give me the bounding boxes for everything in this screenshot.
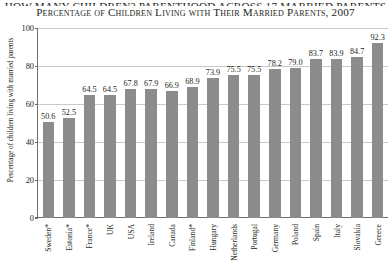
chart-title-block: HOW MANY CHILDREN? PARENTHOOD ACROSS 17 … xyxy=(0,0,391,19)
x-label-slot: Netherlands xyxy=(223,222,244,273)
x-tick-label: Finland* xyxy=(188,224,197,251)
bar[interactable] xyxy=(228,75,240,218)
x-label-slot: Hungary xyxy=(203,222,224,273)
y-tick-label: 80 xyxy=(26,62,34,71)
bar-value-label: 67.9 xyxy=(144,79,158,88)
x-tick-label: USA xyxy=(126,224,135,239)
bar[interactable] xyxy=(372,43,384,218)
bar-slot: 75.5 xyxy=(244,28,265,218)
bar-value-label: 68.9 xyxy=(185,77,199,86)
bar-slot: 67.9 xyxy=(141,28,162,218)
bar-slot: 50.6 xyxy=(38,28,59,218)
y-axis-label: Percentage of children living with marri… xyxy=(7,15,15,205)
bar[interactable] xyxy=(166,91,178,218)
x-tick-label: Canada xyxy=(167,224,176,247)
bar-value-label: 52.5 xyxy=(62,108,76,117)
bar[interactable] xyxy=(331,59,343,218)
bar-slot: 67.8 xyxy=(120,28,141,218)
x-label-slot: USA xyxy=(120,222,141,273)
bar[interactable] xyxy=(290,68,302,218)
x-label-slot: France* xyxy=(79,222,100,273)
x-label-slot: Germany xyxy=(264,222,285,273)
bar-value-label: 75.5 xyxy=(226,65,240,74)
bar-slot: 83.9 xyxy=(326,28,347,218)
x-label-slot: Slovakia xyxy=(347,222,368,273)
x-label-slot: Sweden* xyxy=(38,222,59,273)
x-tick-label: Greece xyxy=(373,224,382,246)
bar-chart: Percentage of children living with marri… xyxy=(0,22,391,273)
bar-value-label: 73.9 xyxy=(206,68,220,77)
bar[interactable] xyxy=(84,95,96,218)
bar-value-label: 83.9 xyxy=(329,49,343,58)
x-label-slot: Ireland xyxy=(141,222,162,273)
x-axis-tick-labels: Sweden*Estonia*France*UKUSAIrelandCanada… xyxy=(38,222,388,273)
bar-slot: 84.7 xyxy=(347,28,368,218)
bar-series: 50.652.564.564.567.867.966.968.973.975.5… xyxy=(38,28,388,218)
bar-slot: 75.5 xyxy=(223,28,244,218)
bar-value-label: 75.5 xyxy=(247,65,261,74)
bar-value-label: 83.7 xyxy=(309,49,323,58)
x-tick-label: Slovakia xyxy=(353,224,362,251)
x-tick-label: Germany xyxy=(270,224,279,252)
bar[interactable] xyxy=(310,59,322,218)
bar-value-label: 64.5 xyxy=(103,85,117,94)
x-label-slot: Spain xyxy=(306,222,327,273)
bar-value-label: 67.8 xyxy=(123,79,137,88)
x-label-slot: Poland xyxy=(285,222,306,273)
y-tick-label: 40 xyxy=(26,138,34,147)
bar-slot: 52.5 xyxy=(59,28,80,218)
x-tick-label: Sweden* xyxy=(44,224,53,252)
bar-slot: 78.2 xyxy=(264,28,285,218)
bar[interactable] xyxy=(125,89,137,218)
bar-value-label: 92.3 xyxy=(371,33,385,42)
bar[interactable] xyxy=(104,95,116,218)
bar-slot: 83.7 xyxy=(306,28,327,218)
x-tick-label: UK xyxy=(106,224,115,235)
y-tick-label: 100 xyxy=(21,24,34,33)
bar[interactable] xyxy=(63,118,75,218)
x-label-slot: Finland* xyxy=(182,222,203,273)
bar[interactable] xyxy=(269,69,281,218)
x-label-slot: Portugal xyxy=(244,222,265,273)
bar[interactable] xyxy=(351,57,363,218)
bar-slot: 64.5 xyxy=(100,28,121,218)
bar-slot: 64.5 xyxy=(79,28,100,218)
x-tick-label: Hungary xyxy=(208,224,217,251)
x-label-slot: Estonia* xyxy=(59,222,80,273)
bar-slot: 79.0 xyxy=(285,28,306,218)
plot-area: 020406080100 50.652.564.564.567.867.966.… xyxy=(38,28,388,218)
bar[interactable] xyxy=(145,89,157,218)
y-tick-mark xyxy=(35,218,38,219)
y-tick-label: 60 xyxy=(26,100,34,109)
x-tick-label: Spain xyxy=(311,224,320,241)
x-tick-label: Ireland xyxy=(147,224,156,246)
bar[interactable] xyxy=(187,87,199,218)
x-label-slot: UK xyxy=(100,222,121,273)
x-label-slot: Canada xyxy=(162,222,183,273)
x-tick-label: France* xyxy=(85,224,94,248)
bar-slot: 66.9 xyxy=(162,28,183,218)
bar[interactable] xyxy=(43,122,55,218)
bar[interactable] xyxy=(248,75,260,218)
y-tick-label: 0 xyxy=(30,214,34,223)
bar-value-label: 66.9 xyxy=(165,81,179,90)
x-tick-label: Italy xyxy=(332,224,341,238)
x-tick-label: Poland xyxy=(291,224,300,245)
x-tick-label: Portugal xyxy=(250,224,259,250)
x-tick-label: Netherlands xyxy=(229,224,238,261)
x-label-slot: Greece xyxy=(367,222,388,273)
bar[interactable] xyxy=(207,78,219,218)
bar-value-label: 64.5 xyxy=(82,85,96,94)
y-tick-label: 20 xyxy=(26,176,34,185)
x-tick-label: Estonia* xyxy=(64,224,73,251)
chart-title: Percentage of Children Living with Their… xyxy=(0,6,391,19)
bar-value-label: 79.0 xyxy=(288,58,302,67)
bar-value-label: 78.2 xyxy=(268,59,282,68)
bar-slot: 73.9 xyxy=(203,28,224,218)
bar-slot: 68.9 xyxy=(182,28,203,218)
bar-value-label: 84.7 xyxy=(350,47,364,56)
bar-slot: 92.3 xyxy=(367,28,388,218)
bar-value-label: 50.6 xyxy=(41,112,55,121)
x-label-slot: Italy xyxy=(326,222,347,273)
